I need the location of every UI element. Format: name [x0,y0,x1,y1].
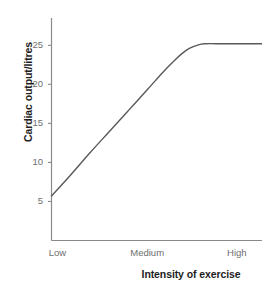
axis-lines [52,18,263,241]
data-series-layer [52,44,263,196]
x-tick-label-high: High [202,247,262,258]
chart-figure: Cardiac output/litres Intensity of exerc… [0,0,262,289]
y-tick-label: 5 [22,195,43,206]
x-tick-label-group: Low [23,247,93,261]
y-tick-label: 15 [22,117,43,128]
x-tick-label-medium: Medium [112,247,182,258]
y-tick-label-group: 10 [22,156,43,168]
x-tick-label-group: High [202,247,262,261]
data-line-cardiac-output [52,44,263,196]
y-tick-label: 10 [22,156,43,167]
x-tick-label-group: Medium [112,247,182,261]
y-tick-label-group: 5 [22,195,43,207]
y-axis-title: Cardiac output/litres [22,12,34,172]
y-tick-label-group: 20 [22,78,43,90]
y-tick-label-group: 25 [22,39,43,51]
x-tick-label-low: Low [23,247,93,258]
x-axis-title: Intensity of exercise [122,268,260,280]
y-tick-label-group: 15 [22,117,43,129]
y-tick-label: 20 [22,78,43,89]
y-tick-label: 25 [22,39,43,50]
